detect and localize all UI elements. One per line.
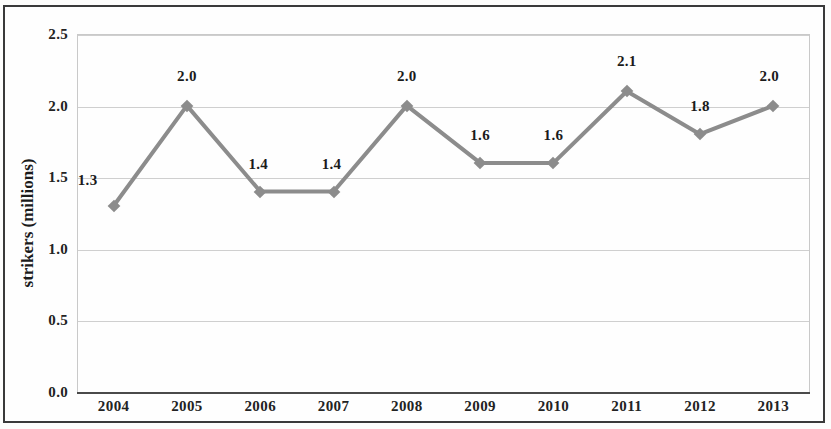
x-axis-tick-label: 2006 bbox=[223, 398, 297, 415]
data-point-label: 1.6 bbox=[526, 127, 580, 144]
data-point-label: 2.0 bbox=[742, 68, 796, 85]
x-axis-tick-label: 2008 bbox=[370, 398, 444, 415]
x-axis-tick-label: 2009 bbox=[443, 398, 517, 415]
gridline bbox=[78, 250, 809, 251]
data-point-label: 1.8 bbox=[673, 98, 727, 115]
data-point-label: 1.6 bbox=[453, 127, 507, 144]
x-axis-line bbox=[77, 392, 810, 394]
data-point-label: 1.3 bbox=[61, 172, 115, 189]
data-point-label: 1.4 bbox=[305, 156, 359, 173]
y-axis-tick-label: 0.0 bbox=[2, 384, 68, 401]
x-axis-tick-label: 2005 bbox=[150, 398, 224, 415]
y-axis-title: strikers (millions) bbox=[18, 103, 38, 343]
x-axis-tick-label: 2007 bbox=[297, 398, 371, 415]
x-axis-tick-label: 2011 bbox=[590, 398, 664, 415]
x-axis-tick-label: 2012 bbox=[663, 398, 737, 415]
x-axis-tick-label: 2013 bbox=[736, 398, 810, 415]
x-axis-tick-label: 2004 bbox=[77, 398, 151, 415]
data-point-label: 2.0 bbox=[380, 68, 434, 85]
chart-figure: 2.52.01.51.00.50.0 strikers (millions) 1… bbox=[0, 0, 831, 429]
gridline bbox=[78, 321, 809, 322]
x-axis-tick-label: 2010 bbox=[516, 398, 590, 415]
gridline bbox=[78, 35, 809, 36]
data-point-label: 1.4 bbox=[231, 156, 285, 173]
data-point-label: 2.1 bbox=[600, 53, 654, 70]
gridline bbox=[78, 178, 809, 179]
y-axis-tick-label: 2.5 bbox=[2, 26, 68, 43]
plot-area bbox=[77, 34, 810, 392]
data-point-label: 2.0 bbox=[160, 68, 214, 85]
